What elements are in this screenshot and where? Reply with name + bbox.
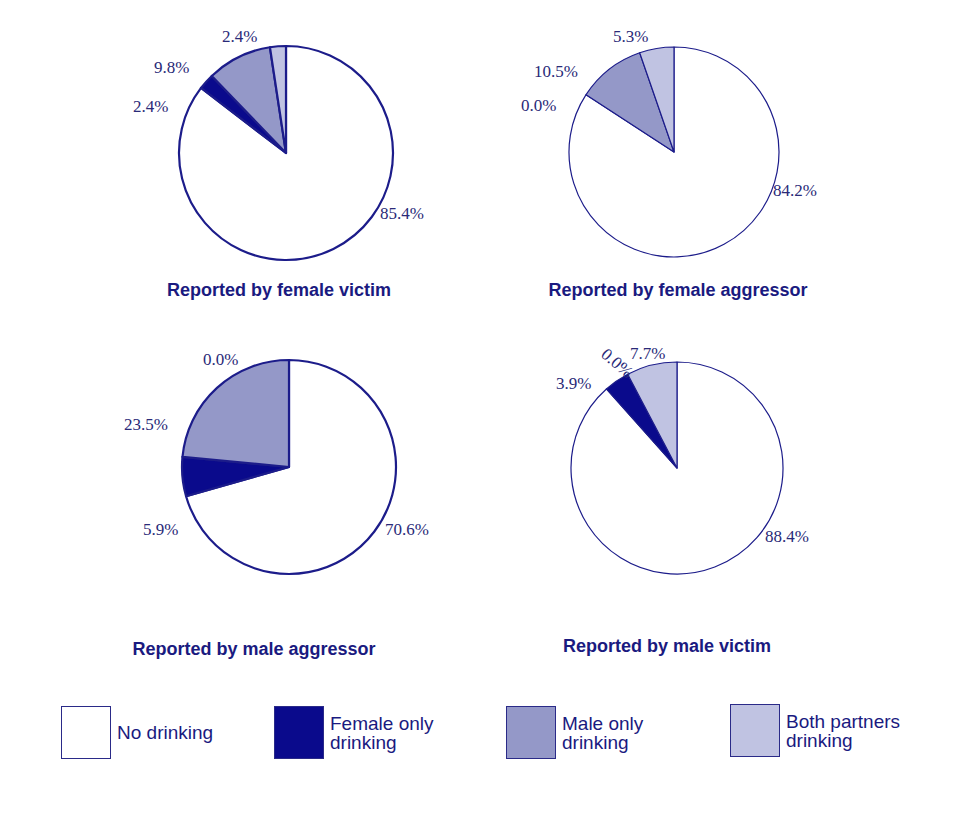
pie-charts-canvas: 85.4%2.4%9.8%2.4% 84.2%0.0%10.5%5.3% 70.…: [0, 0, 963, 825]
swatch-female-only: [274, 706, 324, 759]
pie-male-aggressor: 70.6%5.9%23.5%0.0%: [124, 350, 429, 574]
percent-label: 3.9%: [556, 374, 591, 393]
legend-label: No drinking: [117, 723, 213, 742]
percent-label: 5.3%: [613, 27, 648, 46]
legend-item-female-only: Female only drinking: [274, 706, 434, 759]
percent-label: 9.8%: [154, 58, 189, 77]
percent-label: 2.4%: [133, 97, 168, 116]
swatch-male-only: [506, 706, 556, 759]
legend-label-line2: drinking: [562, 733, 643, 752]
legend-label-line1: Male only: [562, 714, 643, 733]
percent-label: 85.4%: [380, 204, 424, 223]
legend-item-male-only: Male only drinking: [506, 706, 643, 759]
percent-label: 84.2%: [773, 181, 817, 200]
legend-label-line1: Both partners: [786, 712, 900, 731]
caption-female-victim: Reported by female victim: [167, 280, 391, 301]
pie-female-victim: 85.4%2.4%9.8%2.4%: [133, 27, 424, 260]
percent-label: 10.5%: [534, 62, 578, 81]
legend-label-line2: drinking: [330, 733, 434, 752]
caption-male-victim: Reported by male victim: [563, 636, 771, 657]
pie-male-victim: 88.4%3.9%0.0%7.7%: [556, 344, 809, 574]
swatch-both-partners: [730, 704, 780, 757]
legend-item-no-drinking: No drinking: [61, 706, 213, 759]
percent-label: 23.5%: [124, 415, 168, 434]
legend-label: Female only drinking: [330, 714, 434, 752]
percent-label: 0.0%: [521, 96, 556, 115]
caption-female-aggressor: Reported by female aggressor: [548, 280, 807, 301]
percent-label: 88.4%: [765, 527, 809, 546]
percent-label: 5.9%: [143, 520, 178, 539]
pie-female-aggressor: 84.2%0.0%10.5%5.3%: [521, 27, 817, 257]
swatch-no-drinking: [61, 706, 111, 759]
legend-label: Male only drinking: [562, 714, 643, 752]
legend-label: Both partners drinking: [786, 712, 900, 750]
percent-label: 7.7%: [630, 344, 665, 363]
legend-item-both-partners: Both partners drinking: [730, 704, 900, 757]
legend-label-line1: No drinking: [117, 723, 213, 742]
caption-male-aggressor: Reported by male aggressor: [132, 639, 375, 660]
legend-label-line2: drinking: [786, 731, 900, 750]
percent-label: 0.0%: [203, 350, 238, 369]
wedge-male-only: [182, 360, 289, 467]
percent-label: 70.6%: [385, 520, 429, 539]
legend-label-line1: Female only: [330, 714, 434, 733]
percent-label: 2.4%: [222, 27, 257, 46]
